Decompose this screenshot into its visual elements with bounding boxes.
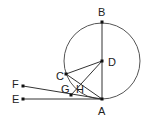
point-d xyxy=(101,60,104,63)
label-b: B xyxy=(98,6,105,18)
point-f xyxy=(22,85,25,88)
label-g: G xyxy=(61,83,70,95)
label-h: H xyxy=(76,83,84,95)
point-b xyxy=(101,21,104,24)
label-a: A xyxy=(98,105,106,117)
point-a xyxy=(101,98,104,101)
label-c: C xyxy=(56,70,64,82)
label-e: E xyxy=(12,93,19,105)
point-c xyxy=(65,73,68,76)
label-d: D xyxy=(108,56,116,68)
point-e xyxy=(22,98,25,101)
geometry-diagram: B D A C G H F E xyxy=(0,0,149,123)
point-g xyxy=(70,94,73,97)
label-f: F xyxy=(12,78,19,90)
